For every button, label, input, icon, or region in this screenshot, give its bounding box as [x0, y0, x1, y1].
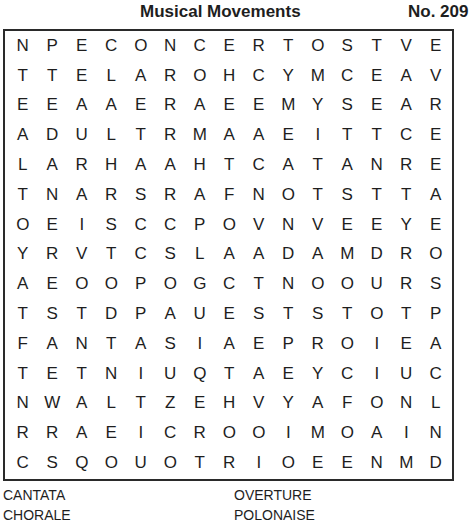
grid-cell[interactable]: A	[244, 120, 274, 150]
grid-cell[interactable]: T	[185, 448, 215, 478]
grid-cell[interactable]: C	[244, 61, 274, 91]
grid-cell[interactable]: E	[362, 210, 392, 240]
grid-cell[interactable]: L	[97, 389, 127, 419]
grid-cell[interactable]: E	[67, 61, 97, 91]
grid-cell[interactable]: E	[185, 389, 215, 419]
grid-cell[interactable]: A	[38, 329, 68, 359]
grid-cell[interactable]: T	[244, 269, 274, 299]
grid-cell[interactable]: S	[97, 210, 127, 240]
grid-cell[interactable]: Y	[8, 240, 38, 270]
grid-cell[interactable]: O	[244, 418, 274, 448]
grid-cell[interactable]: O	[333, 329, 363, 359]
grid-cell[interactable]: L	[421, 389, 451, 419]
grid-cell[interactable]: U	[67, 120, 97, 150]
grid-cell[interactable]: S	[333, 180, 363, 210]
grid-cell[interactable]: N	[274, 269, 304, 299]
grid-cell[interactable]: M	[392, 448, 422, 478]
grid-cell[interactable]: O	[303, 31, 333, 61]
grid-cell[interactable]: S	[303, 299, 333, 329]
grid-cell[interactable]: D	[38, 120, 68, 150]
grid-cell[interactable]: N	[362, 448, 392, 478]
grid-cell[interactable]: T	[8, 299, 38, 329]
grid-cell[interactable]: E	[215, 31, 245, 61]
grid-cell[interactable]: A	[303, 240, 333, 270]
grid-cell[interactable]: N	[38, 180, 68, 210]
grid-cell[interactable]: R	[244, 31, 274, 61]
grid-cell[interactable]: C	[244, 150, 274, 180]
word-search-grid[interactable]: NPECONCERTOSTVETTELAROHCYMCEAVEEAAERAEEM…	[8, 31, 451, 478]
grid-cell[interactable]: R	[392, 240, 422, 270]
grid-cell[interactable]: T	[126, 389, 156, 419]
grid-cell[interactable]: A	[38, 150, 68, 180]
grid-cell[interactable]: O	[215, 418, 245, 448]
grid-cell[interactable]: I	[274, 418, 304, 448]
grid-cell[interactable]: T	[38, 61, 68, 91]
grid-cell[interactable]: R	[392, 150, 422, 180]
grid-cell[interactable]: V	[392, 31, 422, 61]
grid-cell[interactable]: A	[185, 91, 215, 121]
grid-cell[interactable]: I	[362, 329, 392, 359]
grid-cell[interactable]: T	[333, 299, 363, 329]
grid-cell[interactable]: V	[303, 210, 333, 240]
grid-cell[interactable]: R	[421, 91, 451, 121]
grid-cell[interactable]: R	[215, 448, 245, 478]
grid-cell[interactable]: M	[303, 418, 333, 448]
grid-cell[interactable]: A	[8, 269, 38, 299]
grid-cell[interactable]: O	[333, 269, 363, 299]
grid-cell[interactable]: S	[156, 240, 186, 270]
grid-cell[interactable]: Y	[274, 61, 304, 91]
grid-cell[interactable]: W	[38, 389, 68, 419]
grid-cell[interactable]: F	[8, 329, 38, 359]
grid-cell[interactable]: N	[8, 31, 38, 61]
grid-cell[interactable]: E	[392, 329, 422, 359]
grid-cell[interactable]: R	[303, 329, 333, 359]
grid-cell[interactable]: H	[97, 150, 127, 180]
grid-cell[interactable]: G	[185, 269, 215, 299]
grid-cell[interactable]: A	[156, 299, 186, 329]
grid-cell[interactable]: O	[156, 269, 186, 299]
grid-cell[interactable]: O	[274, 448, 304, 478]
grid-cell[interactable]: U	[126, 448, 156, 478]
grid-cell[interactable]: E	[303, 448, 333, 478]
grid-cell[interactable]: P	[421, 299, 451, 329]
grid-cell[interactable]: O	[97, 269, 127, 299]
grid-cell[interactable]: C	[126, 240, 156, 270]
grid-cell[interactable]: I	[185, 329, 215, 359]
grid-cell[interactable]: A	[333, 150, 363, 180]
grid-cell[interactable]: T	[8, 61, 38, 91]
grid-cell[interactable]: E	[215, 299, 245, 329]
grid-cell[interactable]: A	[421, 180, 451, 210]
grid-cell[interactable]: E	[333, 210, 363, 240]
grid-cell[interactable]: O	[303, 269, 333, 299]
grid-cell[interactable]: O	[185, 61, 215, 91]
grid-cell[interactable]: C	[185, 31, 215, 61]
grid-cell[interactable]: E	[67, 31, 97, 61]
grid-cell[interactable]: E	[97, 418, 127, 448]
grid-cell[interactable]: F	[333, 389, 363, 419]
grid-cell[interactable]: Y	[303, 359, 333, 389]
grid-cell[interactable]: O	[421, 240, 451, 270]
grid-cell[interactable]: E	[244, 329, 274, 359]
grid-cell[interactable]: U	[185, 299, 215, 329]
grid-cell[interactable]: A	[244, 240, 274, 270]
grid-cell[interactable]: O	[67, 269, 97, 299]
grid-cell[interactable]: R	[8, 418, 38, 448]
grid-cell[interactable]: C	[97, 31, 127, 61]
grid-cell[interactable]: E	[215, 91, 245, 121]
grid-cell[interactable]: T	[362, 120, 392, 150]
grid-cell[interactable]: R	[156, 180, 186, 210]
grid-cell[interactable]: R	[38, 240, 68, 270]
grid-cell[interactable]: A	[185, 180, 215, 210]
grid-cell[interactable]: S	[333, 91, 363, 121]
grid-cell[interactable]: O	[8, 210, 38, 240]
grid-cell[interactable]: A	[215, 240, 245, 270]
grid-cell[interactable]: Z	[156, 389, 186, 419]
grid-cell[interactable]: I	[126, 359, 156, 389]
grid-cell[interactable]: E	[362, 61, 392, 91]
grid-cell[interactable]: T	[362, 31, 392, 61]
grid-cell[interactable]: M	[274, 91, 304, 121]
grid-cell[interactable]: Y	[303, 91, 333, 121]
grid-cell[interactable]: O	[156, 448, 186, 478]
grid-cell[interactable]: A	[392, 61, 422, 91]
grid-cell[interactable]: T	[333, 120, 363, 150]
